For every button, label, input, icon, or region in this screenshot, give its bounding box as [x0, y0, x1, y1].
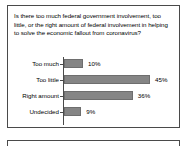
bar [64, 75, 150, 84]
bar [64, 59, 83, 68]
bar-category-label: Too little [8, 76, 59, 84]
bar-category-label: Too much [8, 60, 59, 68]
axis-tick [60, 96, 63, 97]
next-panel [7, 140, 180, 146]
bar-row: Right amount36% [8, 89, 181, 105]
bar-row: Undecided9% [8, 105, 181, 121]
bar [64, 107, 81, 116]
bar-row: Too much10% [8, 57, 181, 73]
bar [64, 91, 133, 100]
bar-value-label: 45% [155, 76, 167, 84]
axis-tick [60, 112, 63, 113]
bar-rows: Too much10%Too little45%Right amount36%U… [8, 54, 181, 128]
axis-tick [60, 64, 63, 65]
chart-question-title: Is there too much federal government inv… [14, 12, 174, 38]
chart-panel: Is there too much federal government inv… [7, 5, 180, 128]
bar-category-label: Right amount [8, 92, 59, 100]
bar-row: Too little45% [8, 73, 181, 89]
bar-value-label: 36% [138, 92, 150, 100]
bar-value-label: 9% [86, 108, 95, 116]
bar-category-label: Undecided [8, 108, 59, 116]
bar-chart: Too much10%Too little45%Right amount36%U… [8, 54, 181, 128]
bar-value-label: 10% [88, 60, 100, 68]
axis-tick [60, 80, 63, 81]
